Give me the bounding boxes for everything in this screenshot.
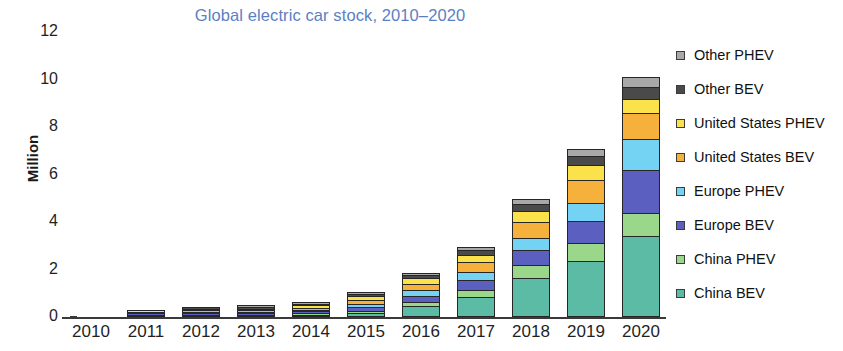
legend-swatch-icon xyxy=(676,289,685,298)
bar-segment[interactable] xyxy=(567,203,605,221)
x-tick-label-2014: 2014 xyxy=(281,322,341,342)
bar-segment[interactable] xyxy=(622,236,660,317)
legend-label: United States BEV xyxy=(694,149,814,165)
y-tick-label: 0 xyxy=(24,308,58,324)
bar-segment[interactable] xyxy=(512,211,550,223)
bar-segment[interactable] xyxy=(457,262,495,272)
bar-stack xyxy=(127,310,165,317)
legend-label: Other PHEV xyxy=(694,47,774,63)
legend-swatch-icon xyxy=(676,153,685,162)
x-tick-label-2012: 2012 xyxy=(171,322,231,342)
y-tick-label: 4 xyxy=(24,213,58,229)
y-tick-label: 2 xyxy=(24,261,58,277)
bar-segment[interactable] xyxy=(457,280,495,290)
legend-label: United States PHEV xyxy=(694,115,825,131)
y-tick-label: 6 xyxy=(24,166,58,182)
legend-item-united-states-phev[interactable]: United States PHEV xyxy=(676,106,841,140)
bar-segment[interactable] xyxy=(622,77,660,87)
legend-swatch-icon xyxy=(676,119,685,128)
y-axis-ticks: 024681012 xyxy=(14,0,58,351)
bar-segment[interactable] xyxy=(622,99,660,113)
bar-segment[interactable] xyxy=(402,306,440,317)
bar-segment[interactable] xyxy=(457,255,495,263)
legend-item-united-states-bev[interactable]: United States BEV xyxy=(676,140,841,174)
x-tick-label-2017: 2017 xyxy=(446,322,506,342)
legend-label: Other BEV xyxy=(694,81,763,97)
bar-segment[interactable] xyxy=(622,113,660,139)
bar-stack xyxy=(347,292,385,317)
legend-swatch-icon xyxy=(676,85,685,94)
bar-segment[interactable] xyxy=(512,278,550,317)
legend-label: Europe PHEV xyxy=(694,183,784,199)
bar-stack xyxy=(402,273,440,317)
bar-stack xyxy=(567,149,605,317)
x-tick-label-2013: 2013 xyxy=(226,322,286,342)
bar-segment[interactable] xyxy=(512,238,550,250)
legend-swatch-icon xyxy=(676,255,685,264)
bar-segment[interactable] xyxy=(512,265,550,278)
x-tick-label-2011: 2011 xyxy=(116,322,176,342)
legend-item-other-bev[interactable]: Other BEV xyxy=(676,72,841,106)
bar-segment[interactable] xyxy=(622,139,660,170)
legend-item-europe-bev[interactable]: Europe BEV xyxy=(676,208,841,242)
bar-stack xyxy=(182,307,220,317)
bar-stack xyxy=(292,302,330,317)
bar-segment[interactable] xyxy=(567,165,605,179)
legend-swatch-icon xyxy=(676,221,685,230)
bar-segment[interactable] xyxy=(402,296,440,303)
bar-segment[interactable] xyxy=(567,180,605,203)
y-tick-label: 8 xyxy=(24,118,58,134)
bar-segment[interactable] xyxy=(512,250,550,265)
bar-segment[interactable] xyxy=(512,204,550,211)
bar-stack xyxy=(457,247,495,318)
x-axis-line xyxy=(62,317,666,319)
y-tick-label: 10 xyxy=(24,71,58,87)
bar-stack xyxy=(622,77,660,317)
legend-item-other-phev[interactable]: Other PHEV xyxy=(676,38,841,72)
x-tick-label-2016: 2016 xyxy=(391,322,451,342)
legend-swatch-icon xyxy=(676,187,685,196)
x-tick-label-2020: 2020 xyxy=(611,322,671,342)
legend-swatch-icon xyxy=(676,51,685,60)
bar-segment[interactable] xyxy=(347,313,385,318)
bar-segment[interactable] xyxy=(567,261,605,317)
bar-segment[interactable] xyxy=(292,315,330,317)
legend-label: Europe BEV xyxy=(694,217,774,233)
bar-segment[interactable] xyxy=(567,243,605,261)
bar-segment[interactable] xyxy=(512,222,550,238)
bar-segment[interactable] xyxy=(457,290,495,297)
x-tick-label-2015: 2015 xyxy=(336,322,396,342)
bar-segment[interactable] xyxy=(402,284,440,291)
chart-title: Global electric car stock, 2010–2020 xyxy=(0,6,660,25)
bar-segment[interactable] xyxy=(622,170,660,213)
bar-segment[interactable] xyxy=(622,213,660,237)
bar-segment[interactable] xyxy=(567,221,605,244)
bar-stack xyxy=(512,199,550,317)
chart-figure: Global electric car stock, 2010–2020 Mil… xyxy=(0,0,843,351)
x-tick-label-2010: 2010 xyxy=(61,322,121,342)
legend-label: China BEV xyxy=(694,285,765,301)
x-tick-label-2018: 2018 xyxy=(501,322,561,342)
legend-label: China PHEV xyxy=(694,251,775,267)
bar-segment[interactable] xyxy=(237,315,275,317)
bar-segment[interactable] xyxy=(457,272,495,280)
bar-segment[interactable] xyxy=(567,156,605,165)
legend-item-china-bev[interactable]: China BEV xyxy=(676,276,841,310)
y-tick-label: 12 xyxy=(24,23,58,39)
legend-item-europe-phev[interactable]: Europe PHEV xyxy=(676,174,841,208)
bar-segment[interactable] xyxy=(127,315,165,317)
chart-legend: Other PHEVOther BEVUnited States PHEVUni… xyxy=(676,38,841,310)
bar-stack xyxy=(237,305,275,317)
x-tick-label-2019: 2019 xyxy=(556,322,616,342)
bar-segment[interactable] xyxy=(567,149,605,156)
bar-segment[interactable] xyxy=(622,87,660,99)
legend-item-china-phev[interactable]: China PHEV xyxy=(676,242,841,276)
bar-segment[interactable] xyxy=(182,315,220,317)
plot-area xyxy=(62,32,664,317)
bar-segment[interactable] xyxy=(457,297,495,317)
